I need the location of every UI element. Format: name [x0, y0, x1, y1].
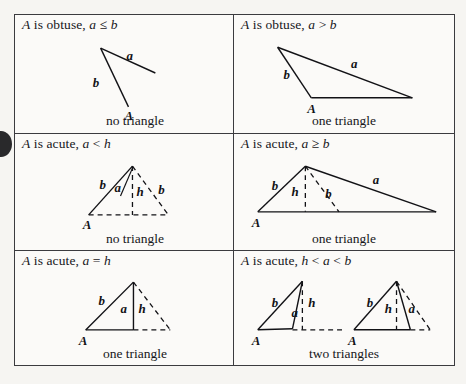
side-a-line: [278, 47, 413, 98]
side-a-line: [397, 281, 411, 330]
case-cell-obtuse-a-gt-b: A is obtuse, a > b a b A one triangle: [233, 15, 454, 133]
case-condition: A is acute, a ≥ b: [241, 136, 330, 152]
case-cell-acute-a-lt-h: A is acute, a < h b a h b A no triangle: [15, 134, 233, 251]
label-a: a: [121, 301, 128, 316]
case-caption: one triangle: [15, 346, 233, 362]
label-b: b: [367, 296, 374, 310]
side-b-line: [278, 47, 312, 98]
side-b-right-dashed-line: [132, 166, 168, 215]
label-h: h: [385, 302, 392, 316]
label-b-right: b: [158, 182, 165, 197]
label-a: a: [408, 302, 415, 316]
side-b-line: [354, 281, 397, 330]
mirrored-side-dashed-line: [133, 282, 170, 330]
left-triangle-group: b a h A: [251, 281, 343, 347]
side-a-short-line: [121, 168, 133, 196]
case-condition: A is acute, a < h: [22, 136, 111, 152]
label-h: h: [138, 301, 145, 316]
label-h: h: [136, 184, 143, 199]
side-a-line: [101, 48, 156, 73]
label-a: a: [351, 57, 358, 71]
side-b-line: [86, 282, 134, 330]
case-caption: one triangle: [234, 231, 454, 247]
side-a-line: [292, 281, 302, 329]
case-table: A is obtuse, a ≤ b a b A no triangle A i…: [14, 14, 455, 366]
ambiguous-case-reference-figure: A is obtuse, a ≤ b a b A no triangle A i…: [0, 0, 466, 384]
label-a: a: [115, 180, 122, 195]
label-b-left: b: [272, 179, 279, 193]
table-row: A is acute, a < h b a h b A no triangle: [15, 133, 454, 251]
side-b-line: [258, 166, 306, 212]
base-line: [258, 329, 293, 330]
case-condition: A is obtuse, a ≤ b: [22, 17, 118, 33]
label-b: b: [284, 68, 291, 82]
case-caption: no triangle: [15, 113, 233, 129]
label-b: b: [272, 296, 279, 310]
label-b-alt: b: [325, 187, 332, 201]
page-punch-mark: [0, 131, 12, 157]
label-A: A: [82, 217, 92, 232]
alternate-side-b-dashed-line: [305, 166, 339, 212]
case-cell-acute-h-lt-a-lt-b: A is acute, h < a < b b a h A: [233, 251, 454, 366]
label-A: A: [251, 216, 261, 230]
side-b-line: [101, 48, 129, 107]
side-a-line: [305, 166, 436, 212]
case-condition: A is obtuse, a > b: [241, 17, 337, 33]
case-caption: no triangle: [15, 231, 233, 247]
case-caption: one triangle: [234, 113, 454, 129]
right-triangle-group: b h a A: [347, 281, 430, 347]
side-b-left-line: [89, 166, 133, 215]
label-b: b: [93, 75, 100, 90]
case-cell-acute-a-ge-b: A is acute, a ≥ b b h b a A one triangle: [233, 134, 454, 251]
label-h: h: [308, 296, 315, 310]
label-a: a: [291, 306, 298, 320]
case-condition: A is acute, a = h: [22, 253, 111, 269]
case-condition: A is acute, h < a < b: [241, 253, 351, 269]
case-cell-obtuse-a-le-b: A is obtuse, a ≤ b a b A no triangle: [15, 15, 233, 133]
case-caption: two triangles: [234, 346, 454, 362]
mirrored-side-dashed-line: [397, 281, 431, 330]
table-row: A is obtuse, a ≤ b a b A no triangle A i…: [15, 15, 454, 133]
label-b-left: b: [100, 177, 107, 192]
label-a: a: [126, 48, 133, 63]
label-a: a: [373, 173, 380, 187]
case-cell-acute-a-eq-h: A is acute, a = h b a h A one triangle: [15, 251, 233, 366]
label-b: b: [99, 293, 106, 308]
table-row: A is acute, a = h b a h A one triangle: [15, 250, 454, 366]
side-b-line: [258, 281, 303, 330]
label-h: h: [291, 185, 298, 199]
